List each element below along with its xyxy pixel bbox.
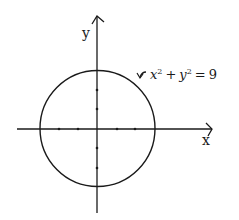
equation-label: x2+y2=9: [150, 67, 217, 82]
y-axis-arrow-icon: [92, 16, 104, 24]
y-axis-label: y: [81, 25, 90, 41]
x-axis-label: x: [202, 132, 210, 148]
coordinate-plane: y x x2+y2=9: [0, 0, 239, 220]
